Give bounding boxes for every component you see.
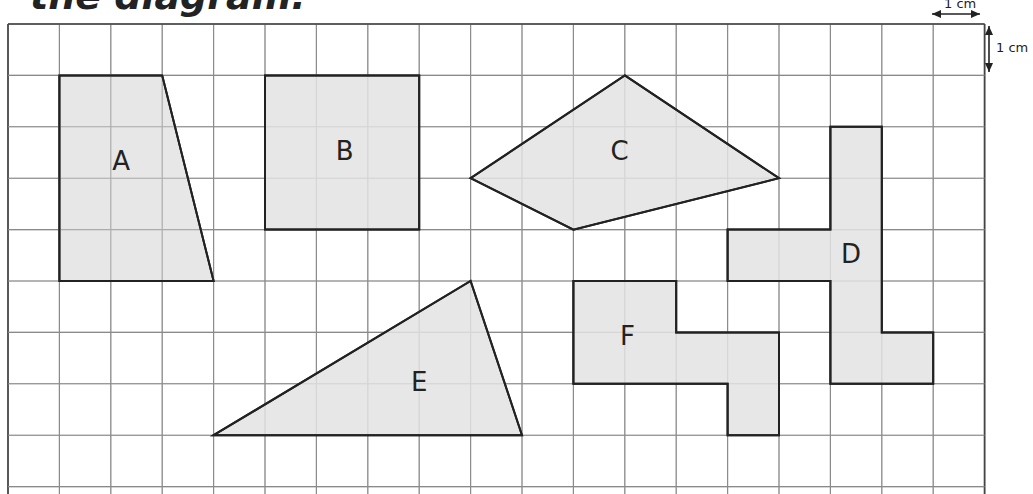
- shape-c-label: C: [611, 136, 629, 166]
- vertical-scale-arrow-icon: [985, 26, 993, 72]
- shape-f-label: F: [620, 321, 635, 351]
- shape-e-label: E: [411, 367, 427, 397]
- shape-c: C: [471, 75, 779, 229]
- vertical-scale-label: 1 cm: [996, 40, 1028, 55]
- shape-b: B: [265, 75, 419, 229]
- shape-b-label: B: [336, 136, 354, 166]
- scale-indicator: 1 cm 1 cm: [932, 0, 1028, 72]
- shape-grid-diagram: ABCDEF 1 cm 1 cm: [0, 0, 1033, 494]
- horizontal-scale-label: 1 cm: [944, 0, 976, 11]
- shape-d-label: D: [841, 239, 861, 269]
- horizontal-scale-arrow-icon: [932, 10, 980, 18]
- shapes-layer: ABCDEF: [8, 24, 985, 494]
- shape-a-label: A: [112, 146, 130, 176]
